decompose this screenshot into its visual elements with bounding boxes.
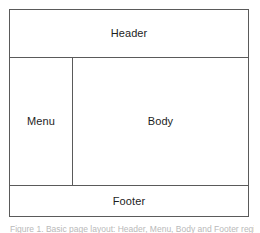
region-body: Body [73, 58, 248, 185]
region-menu-label: Menu [27, 116, 55, 127]
region-middle-row: Menu Body [10, 58, 248, 186]
layout-wireframe: Header Menu Body Footer [9, 9, 249, 217]
region-footer-label: Footer [113, 196, 145, 207]
region-header-label: Header [111, 28, 148, 39]
figure-root: Header Menu Body Footer Figure 1. Basic … [0, 0, 260, 233]
region-body-label: Body [148, 116, 173, 127]
figure-caption: Figure 1. Basic page layout: Header, Men… [10, 224, 254, 233]
region-menu: Menu [10, 58, 73, 185]
region-header: Header [10, 10, 248, 58]
region-footer: Footer [10, 186, 248, 216]
